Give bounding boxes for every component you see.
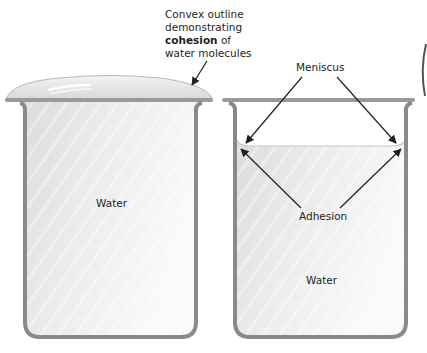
adhesion-label: Adhesion — [299, 210, 347, 223]
annotation-line-4: water molecules — [165, 47, 252, 60]
cohesion-arrow — [192, 61, 207, 85]
left-water-label: Water — [96, 197, 127, 210]
meniscus-line — [236, 138, 406, 146]
meniscus-arrow-right — [337, 77, 396, 143]
right-water-label: Water — [306, 274, 337, 287]
annotation-line-1: Convex outline — [165, 8, 252, 21]
cohesion-annotation: Convex outline demonstrating cohesion of… — [165, 8, 252, 60]
meniscus-arrow-left — [246, 77, 302, 143]
cohesion-term: cohesion — [165, 34, 218, 46]
meniscus-label: Meniscus — [296, 61, 344, 74]
annotation-line-2: demonstrating — [165, 21, 252, 34]
annotation-of: of — [221, 34, 231, 46]
annotation-line-3: cohesion of — [165, 34, 252, 47]
convex-dome — [6, 76, 212, 102]
edge-fragment — [423, 44, 426, 96]
